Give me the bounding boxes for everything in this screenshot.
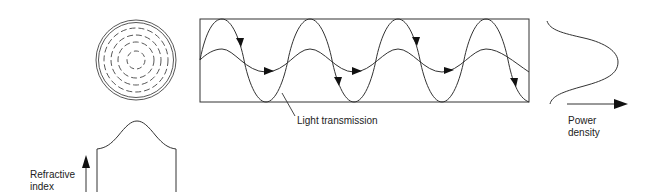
power-density-arrow-icon (614, 99, 628, 109)
fiber-longitudinal-view (200, 19, 529, 102)
arrow-icon (334, 77, 342, 86)
refractive-index-arrow-icon (82, 155, 90, 168)
power-density-label-line1: Power (568, 115, 597, 126)
light-transmission-leader (282, 93, 295, 116)
low-order-mode-ray (200, 49, 529, 72)
light-transmission-label: Light transmission (297, 115, 378, 126)
refractive-index-profile (86, 121, 176, 192)
fiber-cross-section (96, 20, 176, 100)
fiber-diagram: Light transmission Power density Refract… (0, 0, 654, 192)
arrow-icon (510, 78, 518, 87)
arrow-icon (352, 67, 362, 75)
power-density-profile (547, 21, 618, 104)
arrow-icon (444, 67, 454, 74)
refractive-index-label-line2: index (30, 181, 54, 192)
high-order-mode-ray (200, 19, 529, 102)
power-density-label-line2: density (568, 127, 600, 138)
ray-direction-arrows (236, 37, 518, 87)
arrow-icon (264, 67, 274, 75)
refractive-index-label-line1: Refractive (30, 169, 75, 180)
fiber-core-rect (200, 19, 529, 102)
